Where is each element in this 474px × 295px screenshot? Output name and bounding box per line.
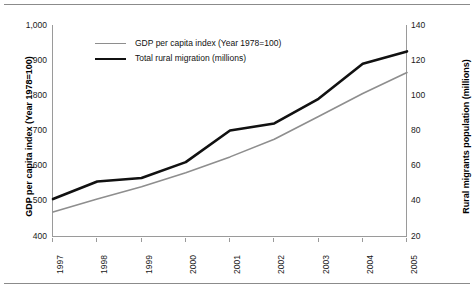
x-axis-tick-label: 1997 xyxy=(56,255,65,274)
left-axis-tick-label: 700 xyxy=(33,126,47,135)
legend-label-gdp: GDP per capita index (Year 1978=100) xyxy=(135,39,281,48)
right-axis-tick-label: 140 xyxy=(411,21,425,30)
legend-label-migration: Total rural migration (millions) xyxy=(135,54,246,63)
dual-axis-line-chart: 4005006007008009001,000 2040608010012014… xyxy=(0,8,474,280)
x-axis-tick-label: 2004 xyxy=(366,255,375,274)
x-axis-tickmark xyxy=(185,238,186,242)
left-axis-title: GDP per capita index (Year 1978=100) xyxy=(25,47,34,227)
legend-item-gdp: GDP per capita index (Year 1978=100) xyxy=(95,36,281,51)
legend-line-swatch-gdp-icon xyxy=(95,43,126,44)
legend-line-swatch-migration-icon xyxy=(95,58,126,60)
x-axis-tickmark xyxy=(362,238,363,242)
left-axis-tick-label: 600 xyxy=(33,161,47,170)
legend-item-migration: Total rural migration (millions) xyxy=(95,51,281,66)
x-axis-tick-label: 2000 xyxy=(189,255,198,274)
x-axis-tickmark xyxy=(406,238,407,242)
series-line xyxy=(53,51,407,199)
chart-page: 4005006007008009001,000 2040608010012014… xyxy=(0,0,474,295)
x-axis-tick-label: 1999 xyxy=(145,255,154,274)
right-axis-ticks: 20406080100120140 xyxy=(411,8,451,280)
x-axis-tickmark xyxy=(52,238,53,242)
right-axis-tick-label: 80 xyxy=(411,126,420,135)
x-axis-tickmark xyxy=(318,238,319,242)
right-axis-title: Rural migrants population (millions) xyxy=(462,37,471,237)
chart-legend: GDP per capita index (Year 1978=100) Tot… xyxy=(95,36,281,66)
right-axis-tick-label: 20 xyxy=(411,232,420,241)
x-axis-tickmark xyxy=(96,238,97,242)
left-axis-tick-label: 800 xyxy=(33,91,47,100)
x-axis-tick-label: 2002 xyxy=(277,255,286,274)
right-axis-tick-label: 120 xyxy=(411,56,425,65)
x-axis-tick-label: 2003 xyxy=(322,255,331,274)
left-axis-tick-label: 1,000 xyxy=(26,21,47,30)
left-axis-tick-label: 900 xyxy=(33,56,47,65)
x-axis-tickmark xyxy=(141,238,142,242)
left-axis-tick-label: 400 xyxy=(33,232,47,241)
right-axis-tick-label: 100 xyxy=(411,91,425,100)
page-rule-top xyxy=(4,4,470,5)
right-axis-tick-label: 40 xyxy=(411,196,420,205)
x-axis-tick-label: 2001 xyxy=(233,255,242,274)
series-line xyxy=(53,72,407,212)
x-axis-tickmark xyxy=(273,238,274,242)
x-axis-tickmark xyxy=(229,238,230,242)
right-axis-tick-label: 60 xyxy=(411,161,420,170)
x-axis-tick-label: 2005 xyxy=(410,255,419,274)
x-axis-tick-label: 1998 xyxy=(100,255,109,274)
x-axis-ticks: 199719981999200020012002200320042005 xyxy=(52,238,407,288)
left-axis-tick-label: 500 xyxy=(33,196,47,205)
